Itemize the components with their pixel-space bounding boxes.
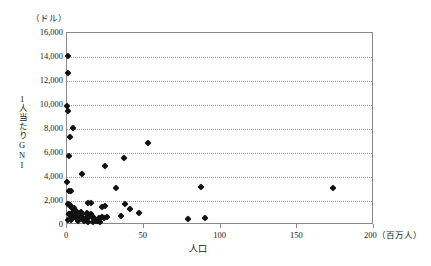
scatter-point	[66, 134, 73, 141]
y-axis-tick-label: 4,000	[23, 172, 63, 181]
y-axis-tick-label: 8,000	[23, 124, 63, 133]
scatter-point	[118, 212, 125, 219]
scatter-point	[113, 184, 120, 191]
x-axis-tick-mark	[373, 224, 374, 228]
y-axis-unit-label: （ドル）	[31, 13, 67, 24]
gridline	[67, 153, 372, 154]
scatter-point	[145, 140, 152, 147]
x-axis-tick-label: 200（百万人）	[364, 230, 422, 240]
y-axis-tick-label: 12,000	[23, 76, 63, 85]
y-axis-tick-label: 6,000	[23, 148, 63, 157]
scatter-point	[65, 69, 72, 76]
scatter-point	[136, 209, 143, 216]
scatter-point	[126, 205, 133, 212]
y-axis-tick-label: 14,000	[23, 52, 63, 61]
scatter-point	[329, 185, 336, 192]
scatter-point	[197, 184, 204, 191]
x-axis-tick-label: 100	[213, 230, 226, 240]
x-axis-title: 人口	[0, 244, 431, 255]
y-axis-tick-label: 2,000	[23, 196, 63, 205]
x-axis-tick-label: 50	[139, 230, 148, 240]
scatter-point	[64, 179, 71, 186]
y-axis-tick-label: 16,000	[23, 28, 63, 37]
gridline	[67, 201, 372, 202]
x-axis-tick-mark	[220, 224, 221, 228]
gridline	[67, 129, 372, 130]
scatter-plot-figure: （ドル） 1人当たりGNI 02,0004,0006,0008,00010,00…	[0, 0, 431, 266]
gridline	[67, 57, 372, 58]
x-axis-tick-mark	[66, 224, 67, 228]
scatter-point	[70, 125, 77, 132]
x-axis-tick-label: 0	[64, 230, 68, 240]
x-axis-title-text: 人口	[189, 244, 207, 254]
gridline	[67, 105, 372, 106]
plot-area	[66, 32, 373, 224]
y-axis-tick-labels: 02,0004,0006,0008,00010,00012,00014,0001…	[20, 32, 63, 224]
x-axis-tick-label: 150	[290, 230, 303, 240]
scatter-point	[185, 215, 192, 222]
scatter-point	[64, 107, 71, 114]
y-axis-tick-label: 10,000	[23, 100, 63, 109]
scatter-point	[64, 53, 71, 60]
x-axis-tick-mark	[143, 224, 144, 228]
x-axis-tick-mark	[296, 224, 297, 228]
top-bleed-text	[26, 0, 356, 8]
scatter-point	[120, 154, 127, 161]
scatter-point	[202, 214, 209, 221]
scatter-point	[102, 163, 109, 170]
gridline	[67, 177, 372, 178]
gridline	[67, 81, 372, 82]
y-axis-tick-label: 0	[23, 220, 63, 229]
